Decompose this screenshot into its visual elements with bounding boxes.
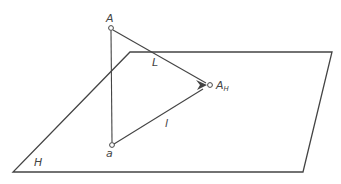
label-a: a bbox=[106, 147, 113, 160]
label-A: A bbox=[105, 12, 114, 25]
projector-line bbox=[111, 31, 112, 142]
arrowhead-icon bbox=[196, 80, 207, 90]
point-AH bbox=[208, 83, 213, 88]
label-AH: AH bbox=[215, 79, 230, 93]
line-l bbox=[114, 89, 203, 144]
label-AH-main: A bbox=[215, 79, 224, 92]
line-L bbox=[113, 30, 206, 83]
projection-diagram: A AH a L l H bbox=[0, 0, 341, 184]
label-l: l bbox=[165, 117, 168, 130]
label-AH-subscript: H bbox=[224, 85, 230, 93]
point-A bbox=[109, 26, 114, 31]
label-H: H bbox=[34, 156, 42, 169]
plane-h bbox=[13, 52, 332, 172]
label-L: L bbox=[152, 56, 158, 69]
